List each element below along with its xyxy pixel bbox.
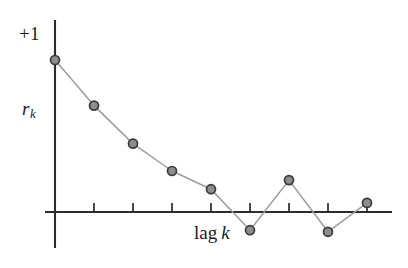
- y-axis-top-label: +1: [19, 24, 40, 43]
- axes-group: [45, 20, 392, 248]
- x-axis-title: lagk: [194, 223, 230, 242]
- correlogram-figure: +1 rk lagk: [0, 0, 408, 268]
- x-axis-title-var: k: [221, 222, 229, 243]
- data-point: [285, 176, 294, 185]
- data-point: [207, 185, 216, 194]
- data-point: [363, 198, 372, 207]
- data-point: [129, 139, 138, 148]
- data-point: [90, 101, 99, 110]
- y-axis-title-subscript: k: [30, 106, 36, 121]
- data-point: [51, 56, 60, 65]
- y-axis-title: rk: [22, 99, 36, 120]
- data-point: [168, 167, 177, 176]
- y-axis-title-var: r: [22, 98, 29, 119]
- data-point: [324, 227, 333, 236]
- data-point: [246, 226, 255, 235]
- x-axis-title-text: lag: [194, 222, 217, 243]
